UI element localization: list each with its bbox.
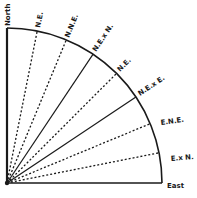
label-ne: N.E. [116, 56, 133, 73]
compass-quadrant-diagram: North N.E. N.N.E. N.E.x N. N.E. N.E.x E.… [0, 0, 197, 198]
ray-ene [7, 124, 150, 183]
label-exn: E.x N. [170, 153, 194, 163]
ray-nne [7, 40, 66, 183]
origin-point [5, 181, 9, 185]
label-nexn: N.E.x N. [91, 23, 115, 54]
label-nexe: N.E.x E. [137, 74, 167, 98]
label-nne: N.N.E. [63, 13, 80, 39]
label-east: East [167, 182, 185, 190]
label-nxe: N.E. [34, 11, 45, 28]
label-ene: E.N.E. [160, 116, 184, 127]
label-north: North [4, 4, 12, 26]
ray-ne [7, 73, 117, 183]
